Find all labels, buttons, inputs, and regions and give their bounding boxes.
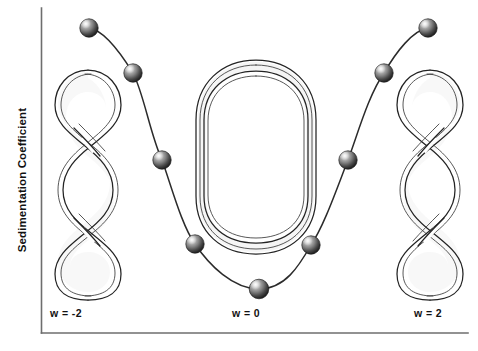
dna-supercoil-left: [55, 70, 121, 300]
y-axis-title: Sedimentation Coefficient: [16, 108, 28, 252]
dna-left-ribbon-fill: [58, 72, 114, 292]
data-point-marker[interactable]: [186, 235, 204, 253]
data-point-marker[interactable]: [249, 279, 269, 299]
data-point-marker[interactable]: [302, 236, 320, 254]
dna-center-innermost-edge: [208, 76, 304, 238]
sedimentation-writhe-plot: Sedimentation Coefficient w = -2 w = 0 w…: [0, 0, 478, 351]
figure-container: Sedimentation Coefficient w = -2 w = 0 w…: [0, 0, 478, 351]
data-point-marker[interactable]: [80, 19, 98, 37]
data-point-marker[interactable]: [375, 64, 393, 82]
dna-center-inner-edge: [204, 71, 308, 243]
x-tick-label-center: w = 0: [231, 307, 260, 319]
dna-right-ribbon-fill: [404, 72, 460, 292]
x-tick-label-right: w = 2: [413, 307, 442, 319]
x-tick-label-left: w = -2: [49, 307, 82, 319]
dna-supercoil-right: [397, 70, 463, 300]
data-point-marker[interactable]: [339, 151, 357, 169]
data-point-marker[interactable]: [153, 151, 171, 169]
dna-center-tube-fill: [198, 62, 314, 252]
data-point-marker[interactable]: [419, 19, 437, 37]
dna-relaxed-circle-center: [196, 60, 316, 254]
data-point-marker[interactable]: [124, 64, 142, 82]
data-point-markers: [80, 19, 437, 299]
